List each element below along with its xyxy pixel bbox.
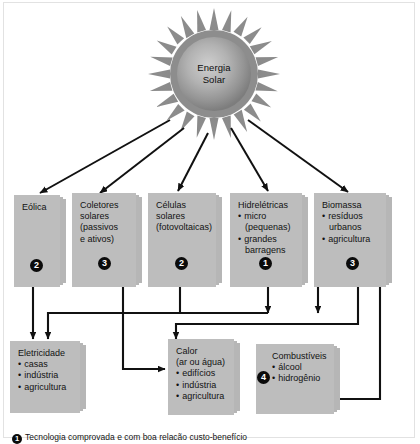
box-content: Células solares (fotovoltaicas)	[148, 193, 216, 287]
box-title: Combustíveis	[272, 351, 330, 362]
box-list: casas indústria agricultura	[18, 359, 76, 393]
sun-label-line1: Energia	[148, 62, 280, 74]
list-item: casas	[18, 359, 76, 370]
source-box-biomassa[interactable]: Biomassa resíduos urbanos agricultura 3	[314, 193, 392, 287]
badge-3: 3	[346, 257, 359, 270]
sun-label: Energia Solar	[148, 62, 280, 85]
list-item: grandes	[238, 234, 298, 245]
badge-4: 4	[257, 371, 270, 384]
output-box-combustiveis[interactable]: Combustíveis álcool hidrogênio 4	[256, 344, 340, 414]
energia-solar-node: Energia Solar	[148, 8, 280, 140]
list-item: resíduos	[322, 211, 382, 222]
box-list: edifícios indústria agricultura	[176, 368, 230, 402]
box-title: Células	[156, 200, 212, 211]
box-list: micro (pequenas) grandes barragens	[238, 211, 298, 256]
box-title: Eletricidade	[18, 348, 76, 359]
source-box-coletores-solares[interactable]: Coletores solares (passivos e ativos) 3	[72, 193, 142, 287]
source-box-eolica[interactable]: Eólica 2	[14, 195, 66, 287]
legend-badge: 1	[12, 434, 22, 444]
box-subtitle: (ar ou água)	[176, 357, 230, 368]
box-title: Biomassa	[322, 200, 382, 211]
box-content: Biomassa resíduos urbanos agricultura	[314, 193, 386, 287]
list-item: álcool	[272, 362, 330, 373]
box-content: Eólica	[14, 195, 60, 287]
box-line: e ativos)	[80, 234, 132, 245]
legend-text: Tecnologia comprovada e com boa relacão …	[25, 432, 247, 442]
source-box-hidreletricas[interactable]: Hidrelétricas micro (pequenas) grandes b…	[230, 193, 308, 287]
box-content: Eletricidade casas indústria agricultura	[10, 341, 80, 413]
list-item: indústria	[18, 370, 76, 381]
sun-label-line2: Solar	[148, 74, 280, 86]
box-title: Calor	[176, 346, 230, 357]
list-item: indústria	[176, 380, 230, 391]
list-item: hidrogênio	[272, 373, 330, 384]
box-line: solares	[80, 211, 132, 222]
box-title: Eólica	[22, 202, 56, 213]
badge-3: 3	[98, 257, 111, 270]
output-box-calor[interactable]: Calor (ar ou água) edifícios indústria a…	[168, 339, 240, 415]
box-list: resíduos urbanos agricultura	[322, 211, 382, 245]
box-content: Coletores solares (passivos e ativos)	[72, 193, 136, 287]
source-box-celulas-solares[interactable]: Células solares (fotovoltaicas) 2	[148, 193, 222, 287]
legend-note: 1Tecnologia comprovada e com boa relacão…	[12, 432, 412, 444]
list-item: urbanos	[322, 222, 382, 233]
box-line: (passivos	[80, 222, 132, 233]
badge-2: 2	[175, 257, 188, 270]
box-content: Hidrelétricas micro (pequenas) grandes b…	[230, 193, 302, 287]
list-item: agricultura	[18, 382, 76, 393]
badge-2: 2	[30, 259, 43, 272]
badge-1: 1	[259, 257, 272, 270]
list-item: edifícios	[176, 368, 230, 379]
list-item: agricultura	[176, 391, 230, 402]
list-item: micro	[238, 211, 298, 222]
list-item: barragens	[238, 245, 298, 256]
box-line: solares	[156, 211, 212, 222]
box-content: Calor (ar ou água) edifícios indústria a…	[168, 339, 234, 415]
box-title: Hidrelétricas	[238, 200, 298, 211]
list-item: agricultura	[322, 234, 382, 245]
box-title: Coletores	[80, 200, 132, 211]
output-box-eletricidade[interactable]: Eletricidade casas indústria agricultura	[10, 341, 86, 413]
list-item: (pequenas)	[238, 222, 298, 233]
box-list: álcool hidrogênio	[272, 362, 330, 384]
box-line: (fotovoltaicas)	[156, 222, 212, 233]
